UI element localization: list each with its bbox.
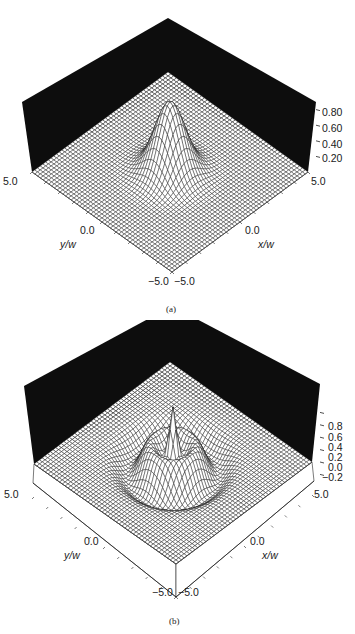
panel-caption-b: (b) <box>169 616 180 626</box>
z-tick-label: 0.60 <box>322 123 342 134</box>
z-tick-label: 0.8 <box>328 421 343 432</box>
z-tick-label: 0.20 <box>322 153 342 164</box>
y-tick-label-min: −5.0 <box>152 587 173 598</box>
panel-caption-a: (a) <box>166 304 176 314</box>
x-tick-label-min: −5.0 <box>174 276 195 287</box>
surface-plot-a <box>0 0 355 320</box>
y-tick-label-min: −5.0 <box>148 276 169 287</box>
z-tick-label: 0.80 <box>322 107 342 118</box>
y-tick-label-mid: 0.0 <box>80 225 95 236</box>
x-tick-label-min: −5.0 <box>178 587 199 598</box>
x-tick-label-mid: 0.0 <box>250 536 265 547</box>
z-tick-label: −0.2 <box>322 472 343 483</box>
x-tick-label-mid: 0.0 <box>245 225 260 236</box>
y-axis-title: y/w <box>64 550 80 561</box>
y-tick-label-max: 5.0 <box>4 489 19 500</box>
x-tick-label-max: 5.0 <box>311 176 326 187</box>
z-tick-label: 0.40 <box>322 139 342 150</box>
y-tick-label-max: 5.0 <box>3 176 18 187</box>
x-axis-title: x/w <box>258 239 274 250</box>
panel-a: 0.80 0.60 0.40 0.20 5.0 0.0 y/w −5.0 5.0… <box>0 0 355 320</box>
x-axis-title: x/w <box>262 550 278 561</box>
y-axis-title: y/w <box>60 239 76 250</box>
panel-b: 0.8 0.6 0.4 0.2 0.0 −0.2 5.0 0.0 y/w −5.… <box>0 320 355 634</box>
y-tick-label-mid: 0.0 <box>84 536 99 547</box>
x-tick-label-max: 5.0 <box>314 489 329 500</box>
